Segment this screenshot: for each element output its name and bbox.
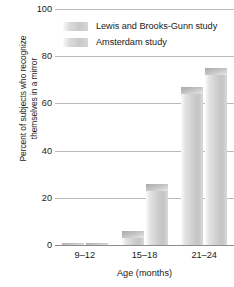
gridline-0: [55, 245, 234, 246]
bar: [181, 87, 203, 245]
bar: [122, 231, 144, 245]
legend-label: Amsterdam study: [96, 37, 167, 47]
legend-swatch-icon: [63, 22, 88, 31]
bar-chart-figure: Percent of subjects who recognize themse…: [0, 0, 234, 287]
y-tick-label: 40: [12, 146, 52, 156]
y-tick-label: 100: [12, 4, 52, 14]
x-tick-label: 15–18: [132, 250, 158, 260]
y-tick-label: 60: [12, 98, 52, 108]
bar-cap: [205, 68, 227, 75]
bar-cap: [62, 243, 84, 245]
gridline-80: [55, 56, 234, 57]
x-axis-label: Age (months): [55, 268, 234, 278]
legend-label: Lewis and Brooks-Gunn study: [96, 21, 217, 31]
bar-cap: [181, 87, 203, 94]
bar: [86, 243, 108, 245]
bar-cap: [146, 184, 168, 191]
x-tick-label: 9–12: [75, 250, 95, 260]
gridline-100: [55, 9, 234, 10]
legend: Lewis and Brooks-Gunn study Amsterdam st…: [63, 19, 217, 51]
bar: [62, 243, 84, 245]
bar: [205, 68, 227, 245]
bar: [146, 184, 168, 245]
x-tick-label: 21–24: [191, 250, 217, 260]
legend-item-1: Amsterdam study: [63, 35, 217, 49]
legend-item-0: Lewis and Brooks-Gunn study: [63, 19, 217, 33]
bar-cap: [86, 243, 108, 245]
y-tick-label: 0: [12, 240, 52, 250]
bar-cap: [122, 231, 144, 238]
y-tick-label: 20: [12, 193, 52, 203]
y-tick-label: 80: [12, 51, 52, 61]
legend-swatch-icon: [63, 38, 88, 47]
